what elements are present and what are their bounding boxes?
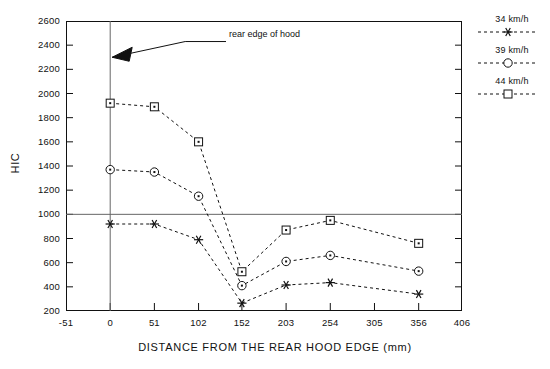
chart-legend: 34 km/h39 km/h44 km/h xyxy=(476,14,548,107)
legend-swatch-square-marker xyxy=(476,86,548,98)
square-marker xyxy=(476,88,540,100)
star-marker xyxy=(476,26,540,38)
x-axis-tick-label: 254 xyxy=(310,317,350,328)
chart-root: 2600240022002000180016001400120010008006… xyxy=(0,0,550,369)
legend-entry-2[interactable]: 44 km/h xyxy=(476,76,548,98)
legend-label: 39 km/h xyxy=(476,45,548,55)
y-axis-tick-label: 2600 xyxy=(14,15,60,26)
legend-entry-1[interactable]: 39 km/h xyxy=(476,45,548,67)
y-axis-tick-label: 2000 xyxy=(14,88,60,99)
circle-marker xyxy=(476,57,540,69)
y-axis-tick-label: 200 xyxy=(14,305,60,316)
legend-swatch-circle-marker xyxy=(476,55,548,67)
plot-area-frame xyxy=(66,21,462,311)
x-axis-tick-label: 0 xyxy=(90,317,130,328)
y-axis-tick-label: 2200 xyxy=(14,63,60,74)
x-axis-tick-label: 356 xyxy=(399,317,439,328)
x-axis-tick-label: 305 xyxy=(354,317,394,328)
y-axis-tick-label: 2400 xyxy=(14,39,60,50)
x-axis-tick-label: -51 xyxy=(46,317,86,328)
x-axis-tick-label: 152 xyxy=(222,317,262,328)
legend-label: 44 km/h xyxy=(476,76,548,86)
y-axis-tick-label: 400 xyxy=(14,281,60,292)
x-axis-tick-label: 203 xyxy=(266,317,306,328)
x-axis-tick-label: 51 xyxy=(134,317,174,328)
rear-edge-of-hood-annotation-label: rear edge of hood xyxy=(229,29,300,39)
y-axis-tick-label: 1000 xyxy=(14,208,60,219)
legend-swatch-star-marker xyxy=(476,24,548,36)
y-axis-tick-label: 800 xyxy=(14,233,60,244)
y-axis-title: HIC xyxy=(9,138,21,188)
x-axis-tick-label: 406 xyxy=(442,317,482,328)
x-axis-title: DISTANCE FROM THE REAR HOOD EDGE (mm) xyxy=(0,341,550,353)
x-axis-tick-label: 102 xyxy=(179,317,219,328)
y-axis-tick-label: 600 xyxy=(14,257,60,268)
legend-entry-0[interactable]: 34 km/h xyxy=(476,14,548,36)
legend-label: 34 km/h xyxy=(476,14,548,24)
y-axis-tick-label: 1800 xyxy=(14,112,60,123)
